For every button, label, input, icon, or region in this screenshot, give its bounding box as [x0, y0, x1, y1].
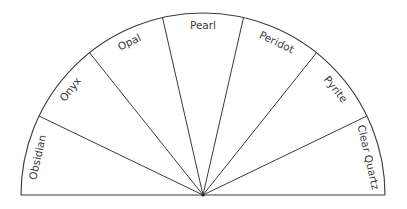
segment-divider	[203, 116, 367, 195]
segment-label-pearl: Pearl	[190, 19, 216, 31]
segment-label-clear-quartz: Clear Quartz	[356, 124, 383, 192]
segment-dividers	[39, 18, 367, 195]
segment-divider	[203, 53, 316, 195]
segment-label-onyx: Onyx	[57, 75, 83, 104]
segment-label-peridot: Peridot	[258, 28, 296, 55]
segment-label-opal: Opal	[116, 31, 143, 52]
semicircle-outline	[21, 13, 385, 195]
segment-label-pyrite: Pyrite	[322, 73, 350, 104]
center-point	[201, 193, 204, 196]
semicircle-chart: ObsidianOnyxOpalPearlPeridotPyriteClear …	[0, 0, 407, 209]
segment-labels: ObsidianOnyxOpalPearlPeridotPyriteClear …	[26, 19, 382, 191]
segment-divider	[203, 18, 244, 195]
segment-divider	[90, 53, 203, 195]
segment-divider	[39, 116, 203, 195]
segment-divider	[163, 18, 204, 195]
